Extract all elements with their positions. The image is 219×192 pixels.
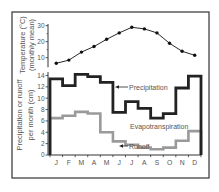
month-tick-label: J [55, 159, 58, 166]
y-tick-label: 10 [37, 54, 45, 61]
y-tick-label: 12 [37, 83, 45, 90]
temperature-axis-title: Temperature (°C) (monthly mean) [18, 16, 36, 74]
y-tick-label: 14 [37, 72, 45, 79]
month-tick-label: N [180, 159, 185, 166]
y-tick-label: 0 [41, 151, 45, 158]
month-tick-label: F [67, 159, 71, 166]
month-tick-label: M [79, 159, 85, 166]
evapotranspiration-label: Evapotranspiration [130, 123, 188, 131]
temperature-point [143, 27, 146, 30]
month-tick-label: J [118, 159, 121, 166]
temperature-point [67, 58, 70, 61]
runoff-label: Runoff [129, 143, 150, 150]
precipitation-axis-title-line1: Precipitation or runoff [15, 79, 24, 151]
month-tick-label: J [130, 159, 133, 166]
temperature-point [130, 26, 133, 29]
temperature-point [80, 50, 83, 53]
temperature-point [168, 42, 171, 45]
temperature-point [118, 31, 121, 34]
temperature-point [193, 54, 196, 57]
y-tick-label: 10 [37, 95, 45, 102]
precipitation-label: Precipitation [129, 84, 168, 92]
month-tick-label: A [92, 159, 97, 166]
climate-chart: Temperature (°C) (monthly mean) Precipit… [0, 0, 219, 192]
temperature-axis-title-line2: (monthly mean) [27, 18, 36, 71]
precipitation-axis-title-line2: per month (cm) [26, 89, 35, 140]
y-tick-label: 6 [41, 117, 45, 124]
y-tick-label: 8 [41, 106, 45, 113]
temperature-point [155, 31, 158, 34]
temperature-point [105, 38, 108, 41]
month-tick-label: A [142, 159, 147, 166]
month-tick-label: S [155, 159, 160, 166]
month-tick-label: O [167, 159, 172, 166]
y-tick-label: 4 [41, 129, 45, 136]
month-tick-label: D [192, 159, 197, 166]
y-tick-label: 2 [41, 140, 45, 147]
temperature-point [55, 62, 58, 65]
month-tick-label: M [104, 159, 110, 166]
y-tick-label: 20 [37, 38, 45, 45]
temperature-point [92, 45, 95, 48]
temperature-point [180, 50, 183, 53]
y-tick-label: 30 [37, 22, 45, 29]
